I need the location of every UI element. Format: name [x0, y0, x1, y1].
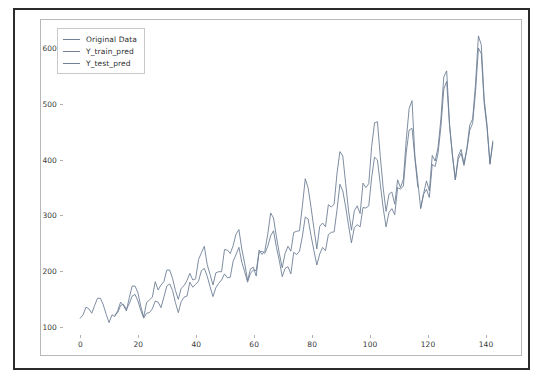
- x-tick-mark: [80, 335, 81, 338]
- y-tick-label: 300: [41, 211, 57, 220]
- x-tick-label: 140: [479, 340, 494, 349]
- x-tick-mark: [486, 335, 487, 338]
- legend-item-y-train-pred: Y_train_pred: [63, 45, 137, 57]
- legend-label: Y_test_pred: [86, 59, 131, 68]
- x-tick-label: 0: [78, 340, 83, 349]
- line-swatch-icon: [63, 63, 80, 64]
- series-layer: [80, 36, 493, 323]
- x-tick-mark: [370, 335, 371, 338]
- figure-outer-frame: 100200300400500600020406080100120140 Ori…: [13, 8, 530, 370]
- x-tick-label: 80: [307, 340, 317, 349]
- y-tick-label: 500: [41, 99, 57, 108]
- y-tick-mark: [60, 160, 63, 161]
- plot-axes: 100200300400500600020406080100120140 Ori…: [40, 19, 522, 356]
- line-swatch-icon: [63, 51, 80, 52]
- x-tick-mark: [428, 335, 429, 338]
- x-tick-mark: [196, 335, 197, 338]
- y-tick-mark: [60, 271, 63, 272]
- y-tick-label: 600: [41, 44, 57, 53]
- x-tick-label: 40: [191, 340, 201, 349]
- x-tick-label: 60: [249, 340, 259, 349]
- legend-label: Original Data: [86, 35, 137, 44]
- chart-legend: Original Data Y_train_pred Y_test_pred: [57, 28, 145, 74]
- y-tick-label: 400: [41, 155, 57, 164]
- x-tick-mark: [138, 335, 139, 338]
- legend-item-y-test-pred: Y_test_pred: [63, 57, 137, 69]
- y-tick-mark: [60, 104, 63, 105]
- y-tick-label: 200: [41, 266, 57, 275]
- line-swatch-icon: [63, 39, 80, 40]
- series-line: [421, 48, 493, 208]
- y-tick-mark: [60, 215, 63, 216]
- y-tick-label: 100: [41, 322, 57, 331]
- y-tick-mark: [60, 327, 63, 328]
- x-tick-label: 100: [363, 340, 378, 349]
- x-tick-label: 20: [133, 340, 143, 349]
- legend-label: Y_train_pred: [86, 47, 134, 56]
- figure-root: 100200300400500600020406080100120140 Ori…: [0, 0, 545, 382]
- series-line: [115, 128, 418, 318]
- legend-item-original-data: Original Data: [63, 33, 137, 45]
- x-tick-label: 120: [421, 340, 436, 349]
- x-tick-mark: [254, 335, 255, 338]
- x-tick-mark: [312, 335, 313, 338]
